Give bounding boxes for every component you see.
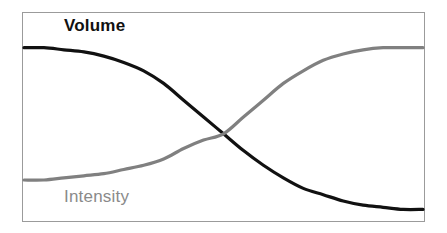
intensity-label: Intensity: [64, 188, 129, 205]
intensity-curve: [24, 48, 423, 181]
volume-label: Volume: [64, 17, 125, 34]
figure-container: Volume Intensity: [0, 0, 447, 233]
volume-curve: [24, 48, 423, 210]
